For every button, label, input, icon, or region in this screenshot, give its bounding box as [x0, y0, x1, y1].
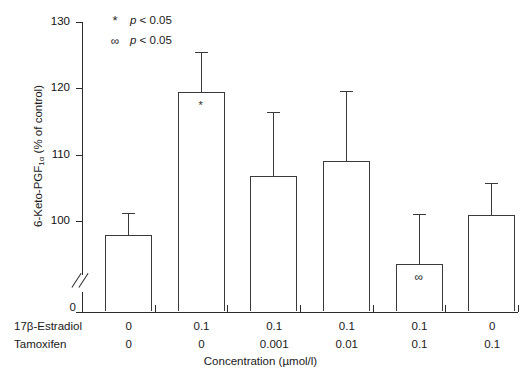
y-tick-label-130: 130	[40, 16, 70, 28]
error-bar-cap-2	[195, 52, 208, 53]
bar-4	[323, 161, 370, 312]
y-tick-label-120: 120	[40, 82, 70, 94]
error-bar-stem-6	[491, 183, 492, 215]
significance-marker-bar-5: ∞	[405, 271, 433, 283]
y-axis-title: 6-Keto-PGF1α (% of control)	[32, 46, 44, 266]
estradiol-value-4: 0.1	[322, 320, 371, 332]
row-label-tamoxifen: Tamoxifen	[14, 338, 66, 350]
row-label-estradiol: 17β-Estradiol	[14, 320, 82, 332]
bar-2	[178, 92, 225, 311]
x-tick-0	[82, 305, 83, 312]
tamoxifen-value-4: 0.01	[322, 338, 371, 350]
tamoxifen-value-6: 0.1	[468, 338, 517, 350]
estradiol-value-3: 0.1	[250, 320, 299, 332]
y-axis-title-tail: (% of control)	[32, 85, 44, 157]
estradiol-value-2: 0.1	[177, 320, 226, 332]
tamoxifen-value-2: 0	[177, 338, 226, 350]
x-tick-1	[155, 305, 156, 312]
y-tick-130	[76, 22, 83, 23]
error-bar-cap-4	[340, 91, 353, 92]
significance-marker-bar-2: *	[187, 100, 215, 111]
error-bar-stem-4	[346, 91, 347, 161]
x-tick-3	[300, 305, 301, 312]
chart-figure: * p < 0.05 ∞ p < 0.05 130 120 110 100 0 …	[0, 0, 521, 377]
x-axis-title: Concentration (µmol/l)	[0, 355, 521, 367]
x-tick-2	[227, 305, 228, 312]
x-tick-4	[373, 305, 374, 312]
error-bar-cap-6	[485, 183, 498, 184]
asterisk-icon: *	[106, 13, 124, 28]
y-tick-120	[76, 88, 83, 89]
error-bar-stem-1	[128, 213, 129, 235]
legend-label-infinity: p < 0.05	[130, 34, 172, 46]
error-bar-stem-2	[201, 52, 202, 92]
y-tick-100	[76, 221, 83, 222]
y-axis-title-main: 6-Keto-PGF	[32, 166, 44, 227]
y-axis-upper-spine	[82, 22, 83, 275]
x-tick-6	[518, 305, 519, 312]
bar-3	[250, 176, 297, 311]
y-tick-110	[76, 155, 83, 156]
y-tick-label-0: 0	[56, 301, 76, 313]
bar-6	[468, 215, 515, 312]
y-axis-title-sub: 1α	[37, 157, 46, 166]
error-bar-stem-3	[273, 112, 274, 176]
error-bar-cap-3	[267, 112, 280, 113]
estradiol-value-5: 0.1	[395, 320, 444, 332]
y-tick-label-100: 100	[40, 215, 70, 227]
tamoxifen-value-3: 0.001	[250, 338, 299, 350]
error-bar-stem-5	[419, 214, 420, 264]
error-bar-cap-1	[122, 213, 135, 214]
y-axis-break-icon	[68, 268, 96, 296]
legend-label-star: p < 0.05	[130, 14, 172, 26]
error-bar-cap-5	[413, 214, 426, 215]
estradiol-value-6: 0	[468, 320, 517, 332]
tamoxifen-value-1: 0	[104, 338, 153, 350]
estradiol-value-1: 0	[104, 320, 153, 332]
infinity-icon: ∞	[106, 34, 124, 48]
bar-1	[105, 235, 152, 312]
x-tick-5	[445, 305, 446, 312]
tamoxifen-value-5: 0.1	[395, 338, 444, 350]
